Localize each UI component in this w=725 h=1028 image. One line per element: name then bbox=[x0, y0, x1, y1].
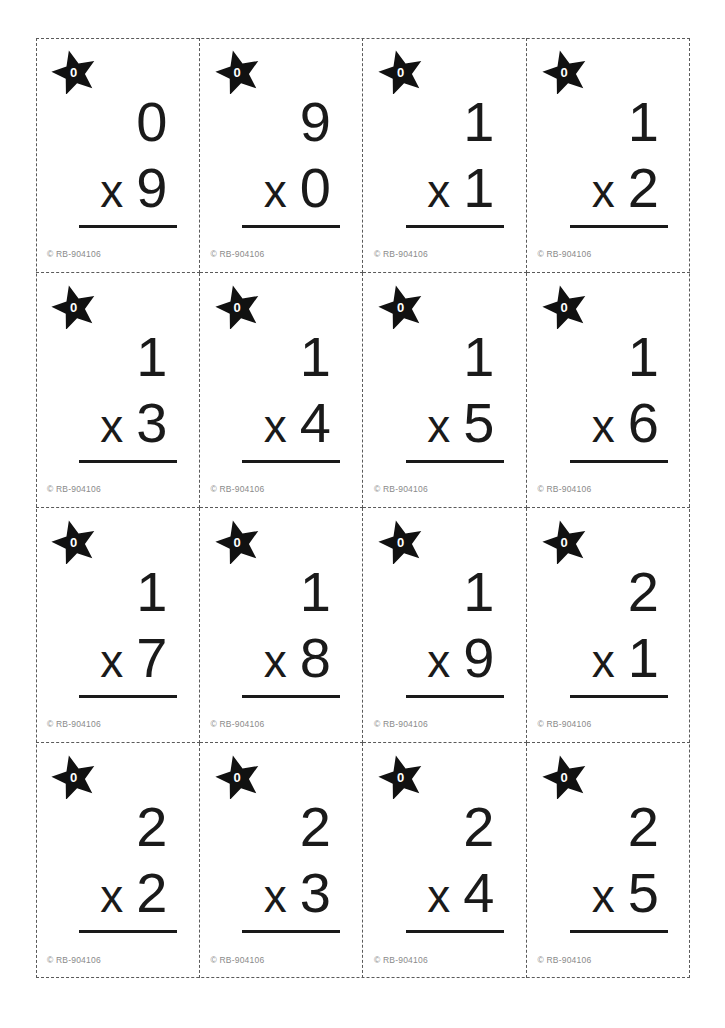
flashcard: 00x9© RB-904106 bbox=[36, 38, 200, 273]
operand-bottom: 7 bbox=[136, 630, 166, 686]
flashcard: 02x4© RB-904106 bbox=[363, 743, 527, 978]
multiplication-operator: x bbox=[264, 403, 286, 449]
multiplication-operator: x bbox=[427, 638, 449, 684]
operand-bottom-row: x0 bbox=[224, 160, 340, 216]
copyright-notice: © RB-904106 bbox=[374, 719, 428, 729]
star-icon: 0 bbox=[214, 48, 262, 94]
operand-top: 0 bbox=[61, 94, 177, 150]
multiplication-problem: 1x3 bbox=[61, 329, 177, 463]
answer-rule bbox=[406, 695, 504, 698]
flashcard: 02x1© RB-904106 bbox=[527, 508, 691, 743]
flashcard: 01x4© RB-904106 bbox=[200, 273, 364, 508]
flashcard: 02x5© RB-904106 bbox=[527, 743, 691, 978]
operand-bottom-row: x2 bbox=[61, 865, 177, 921]
star-icon: 0 bbox=[214, 518, 262, 564]
operand-top: 1 bbox=[388, 94, 504, 150]
star-icon: 0 bbox=[541, 518, 589, 564]
operand-top: 1 bbox=[388, 329, 504, 385]
operand-bottom: 1 bbox=[628, 630, 658, 686]
operand-bottom: 4 bbox=[300, 395, 330, 451]
multiplication-operator: x bbox=[100, 168, 122, 214]
operand-bottom: 3 bbox=[136, 395, 166, 451]
operand-bottom-row: x4 bbox=[224, 395, 340, 451]
operand-bottom-row: x9 bbox=[388, 630, 504, 686]
copyright-notice: © RB-904106 bbox=[374, 484, 428, 494]
operand-bottom-row: x1 bbox=[388, 160, 504, 216]
multiplication-problem: 9x0 bbox=[224, 94, 340, 228]
operand-bottom: 9 bbox=[136, 160, 166, 216]
operand-bottom-row: x5 bbox=[388, 395, 504, 451]
multiplication-operator: x bbox=[592, 873, 614, 919]
operand-bottom: 1 bbox=[463, 160, 493, 216]
answer-rule bbox=[79, 695, 177, 698]
operand-bottom: 2 bbox=[136, 865, 166, 921]
copyright-notice: © RB-904106 bbox=[211, 719, 265, 729]
answer-rule bbox=[242, 930, 340, 933]
answer-rule bbox=[79, 225, 177, 228]
star-icon: 0 bbox=[541, 283, 589, 329]
flashcard: 01x3© RB-904106 bbox=[36, 273, 200, 508]
star-icon: 0 bbox=[377, 753, 425, 799]
flashcard: 01x6© RB-904106 bbox=[527, 273, 691, 508]
flashcard: 01x5© RB-904106 bbox=[363, 273, 527, 508]
flashcard: 09x0© RB-904106 bbox=[200, 38, 364, 273]
answer-rule bbox=[406, 225, 504, 228]
multiplication-problem: 1x2 bbox=[552, 94, 668, 228]
operand-top: 2 bbox=[388, 799, 504, 855]
flashcard: 01x8© RB-904106 bbox=[200, 508, 364, 743]
copyright-notice: © RB-904106 bbox=[538, 249, 592, 259]
star-icon: 0 bbox=[377, 48, 425, 94]
operand-bottom: 8 bbox=[300, 630, 330, 686]
operand-bottom-row: x9 bbox=[61, 160, 177, 216]
star-icon: 0 bbox=[50, 283, 98, 329]
flashcard: 02x2© RB-904106 bbox=[36, 743, 200, 978]
operand-top: 1 bbox=[224, 564, 340, 620]
copyright-notice: © RB-904106 bbox=[47, 249, 101, 259]
copyright-notice: © RB-904106 bbox=[538, 719, 592, 729]
multiplication-operator: x bbox=[264, 168, 286, 214]
operand-top: 1 bbox=[61, 564, 177, 620]
multiplication-problem: 1x4 bbox=[224, 329, 340, 463]
multiplication-operator: x bbox=[427, 168, 449, 214]
flashcard: 02x3© RB-904106 bbox=[200, 743, 364, 978]
multiplication-problem: 1x8 bbox=[224, 564, 340, 698]
flashcard: 01x9© RB-904106 bbox=[363, 508, 527, 743]
operand-top: 1 bbox=[388, 564, 504, 620]
operand-top: 2 bbox=[552, 799, 668, 855]
multiplication-operator: x bbox=[264, 873, 286, 919]
star-icon: 0 bbox=[214, 283, 262, 329]
multiplication-problem: 2x4 bbox=[388, 799, 504, 933]
copyright-notice: © RB-904106 bbox=[47, 719, 101, 729]
operand-top: 1 bbox=[552, 329, 668, 385]
operand-bottom-row: x1 bbox=[552, 630, 668, 686]
operand-bottom-row: x3 bbox=[61, 395, 177, 451]
operand-bottom: 0 bbox=[300, 160, 330, 216]
copyright-notice: © RB-904106 bbox=[211, 955, 265, 965]
multiplication-problem: 2x1 bbox=[552, 564, 668, 698]
copyright-notice: © RB-904106 bbox=[211, 484, 265, 494]
answer-rule bbox=[242, 695, 340, 698]
star-icon: 0 bbox=[541, 48, 589, 94]
multiplication-problem: 2x5 bbox=[552, 799, 668, 933]
multiplication-problem: 1x6 bbox=[552, 329, 668, 463]
answer-rule bbox=[406, 930, 504, 933]
star-icon: 0 bbox=[50, 753, 98, 799]
flashcard: 01x2© RB-904106 bbox=[527, 38, 691, 273]
multiplication-problem: 1x7 bbox=[61, 564, 177, 698]
operand-bottom: 6 bbox=[628, 395, 658, 451]
answer-rule bbox=[570, 225, 668, 228]
operand-bottom: 2 bbox=[628, 160, 658, 216]
answer-rule bbox=[406, 460, 504, 463]
operand-bottom: 4 bbox=[463, 865, 493, 921]
multiplication-problem: 2x2 bbox=[61, 799, 177, 933]
star-icon: 0 bbox=[377, 518, 425, 564]
flashcard: 01x1© RB-904106 bbox=[363, 38, 527, 273]
answer-rule bbox=[79, 460, 177, 463]
operand-bottom: 3 bbox=[300, 865, 330, 921]
copyright-notice: © RB-904106 bbox=[47, 955, 101, 965]
operand-top: 1 bbox=[224, 329, 340, 385]
multiplication-problem: 0x9 bbox=[61, 94, 177, 228]
operand-bottom: 5 bbox=[463, 395, 493, 451]
multiplication-problem: 1x1 bbox=[388, 94, 504, 228]
operand-bottom-row: x2 bbox=[552, 160, 668, 216]
